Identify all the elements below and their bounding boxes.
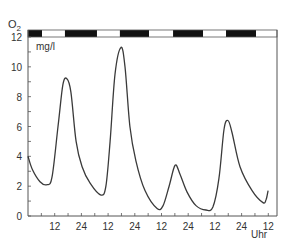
bar-segment-day (97, 30, 120, 37)
y-axis-label: O2 (8, 18, 22, 33)
bar-segment-day (149, 30, 173, 37)
x-tick-label: 12 (209, 221, 221, 232)
y-tick-label: 8 (16, 92, 22, 103)
bar-segment-night (28, 30, 42, 37)
x-axis-label: Uhr (251, 229, 268, 240)
axes (28, 30, 277, 216)
y-tick-label: 4 (16, 151, 22, 162)
bar-segment-day (42, 30, 65, 37)
y-tick-label: 12 (11, 32, 23, 43)
bar-segment-night (65, 30, 97, 37)
x-tick-label: 24 (183, 221, 195, 232)
oxygen-chart: 024681012 122412241224122412 O2 mg/l Uhr (0, 0, 291, 246)
unit-label: mg/l (36, 41, 55, 52)
y-tick-label: 0 (16, 211, 22, 222)
y-tick-label: 10 (11, 62, 23, 73)
day-night-bar (28, 30, 277, 37)
x-tick-label: 24 (236, 221, 248, 232)
x-tick-label: 24 (76, 221, 88, 232)
o2-series-line (28, 47, 268, 210)
bar-segment-day (256, 30, 277, 37)
x-tick-label: 24 (129, 221, 141, 232)
x-tick-label: 12 (103, 221, 115, 232)
y-tick-label: 2 (16, 181, 22, 192)
bar-segment-night (226, 30, 256, 37)
bar-segment-night (120, 30, 149, 37)
bar-segment-day (203, 30, 226, 37)
x-tick-label: 12 (156, 221, 168, 232)
bar-segment-night (173, 30, 203, 37)
chart-canvas: 024681012 122412241224122412 O2 mg/l Uhr (0, 0, 291, 246)
y-tick-label: 6 (16, 122, 22, 133)
x-tick-label: 12 (49, 221, 61, 232)
